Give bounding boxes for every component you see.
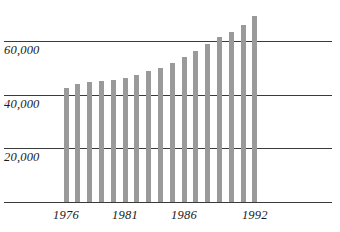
- bar-1977: [75, 84, 80, 202]
- bar-1992: [252, 16, 257, 202]
- bar-1986: [182, 57, 187, 202]
- bar-1984: [158, 68, 163, 202]
- bars-group: [0, 0, 332, 202]
- bar-1983: [146, 71, 151, 202]
- bar-1985: [170, 63, 175, 202]
- bar-1979: [99, 81, 104, 202]
- x-tick-label-1976: 1976: [53, 208, 79, 223]
- x-tick-label-1986: 1986: [171, 208, 197, 223]
- bar-1980: [111, 80, 116, 202]
- bar-1989: [217, 37, 222, 202]
- bar-1981: [123, 78, 128, 202]
- x-axis-line: [4, 202, 332, 203]
- bar-1976: [64, 88, 69, 202]
- bar-chart-figure: 20,00040,00060,000 1976198119861992: [0, 0, 340, 232]
- bar-1978: [87, 82, 92, 202]
- x-tick-label-1992: 1992: [242, 208, 268, 223]
- bar-1982: [134, 75, 139, 202]
- bar-1991: [241, 25, 246, 202]
- x-tick-label-1981: 1981: [112, 208, 138, 223]
- bar-1987: [193, 51, 198, 202]
- bar-1988: [205, 44, 210, 202]
- bar-1990: [229, 32, 234, 202]
